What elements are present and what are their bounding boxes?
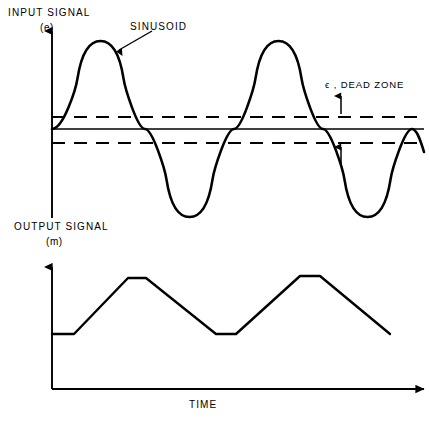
output-signal-unit-label: (m) — [46, 237, 63, 247]
input-signal-label: INPUT SIGNAL — [8, 8, 90, 18]
sinusoid-label: SINUSOID — [130, 22, 187, 32]
dead-zone-figure: INPUT SIGNAL (e) SINUSOID ϵ , DEAD ZONE … — [0, 0, 429, 424]
output-signal-chart — [52, 267, 424, 389]
input-signal-unit-label: (e) — [40, 23, 54, 33]
dead-zone-label: ϵ , DEAD ZONE — [325, 80, 404, 90]
time-axis-label: TIME — [189, 400, 217, 410]
figure-canvas — [0, 0, 429, 424]
output-waveform — [52, 276, 390, 334]
output-signal-label: OUTPUT SIGNAL — [14, 222, 109, 232]
sinusoid-leader-line — [119, 31, 152, 50]
input-signal-chart — [52, 31, 424, 218]
